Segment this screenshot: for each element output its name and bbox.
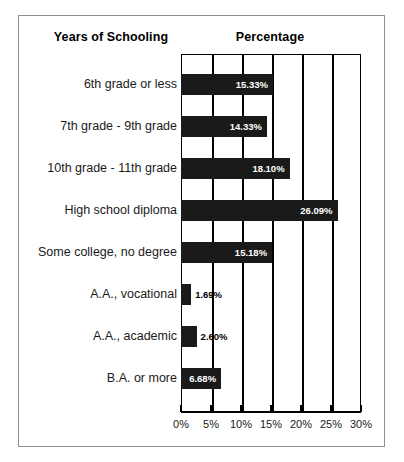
bar-row: 6.68% xyxy=(181,368,361,389)
category-label: Some college, no degree xyxy=(5,242,177,263)
bar xyxy=(181,284,191,305)
bar-row: 1.69% xyxy=(181,284,361,305)
bar-row: 26.09% xyxy=(181,200,361,221)
bar-value-label: 26.09% xyxy=(300,200,332,221)
x-tick-label: 30% xyxy=(341,418,381,430)
category-label: A.A., vocational xyxy=(5,284,177,305)
bar-row: 15.33% xyxy=(181,74,361,95)
category-labels: 6th grade or less7th grade - 9th grade10… xyxy=(5,54,177,412)
bar-value-label: 2.60% xyxy=(201,326,228,347)
bars-container: 15.33%14.33%18.10%26.09%15.18%1.69%2.60%… xyxy=(181,54,361,412)
bar-row: 18.10% xyxy=(181,158,361,179)
bar-value-label: 18.10% xyxy=(252,158,284,179)
x-tick-15 xyxy=(270,405,272,412)
bar-row: 2.60% xyxy=(181,326,361,347)
value-column-header: Percentage xyxy=(205,30,335,44)
bar-value-label: 6.68% xyxy=(189,368,216,389)
bar-value-label: 1.69% xyxy=(195,284,222,305)
x-tick-30 xyxy=(360,405,362,412)
category-label: High school diploma xyxy=(5,200,177,221)
category-label: B.A. or more xyxy=(5,368,177,389)
x-tick-0 xyxy=(180,405,182,412)
bar-value-label: 14.33% xyxy=(230,116,262,137)
bar-row: 14.33% xyxy=(181,116,361,137)
x-tick-20 xyxy=(300,405,302,412)
x-tick-10 xyxy=(240,405,242,412)
bar-row: 15.18% xyxy=(181,242,361,263)
category-label: A.A., academic xyxy=(5,326,177,347)
x-tick-5 xyxy=(210,405,212,412)
category-label: 7th grade - 9th grade xyxy=(5,116,177,137)
bar-value-label: 15.18% xyxy=(235,242,267,263)
category-label: 6th grade or less xyxy=(5,74,177,95)
bar-value-label: 15.33% xyxy=(236,74,268,95)
category-label: 10th grade - 11th grade xyxy=(5,158,177,179)
category-column-header: Years of Schooling xyxy=(36,30,186,44)
chart-figure: Years of Schooling Percentage 6th grade … xyxy=(0,0,404,462)
bar xyxy=(181,326,197,347)
x-tick-25 xyxy=(330,405,332,412)
